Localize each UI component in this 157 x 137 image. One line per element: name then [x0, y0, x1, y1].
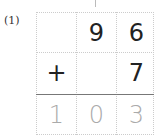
answer-digit-tens: 0 — [77, 95, 116, 135]
problem-number: (1) — [4, 14, 20, 27]
cell-r2-c2 — [77, 53, 116, 93]
plus-sign: + — [37, 53, 76, 93]
cell-r2-c3: 7 — [117, 53, 156, 93]
cell-r1-c1 — [37, 13, 76, 53]
cell-r1-c3: 6 — [117, 13, 156, 53]
cell-r1-c2: 9 — [77, 13, 116, 53]
top-tick-mark — [95, 0, 96, 7]
answer-digit-hundreds: 1 — [37, 95, 76, 135]
answer-digit-ones: 3 — [117, 95, 156, 135]
